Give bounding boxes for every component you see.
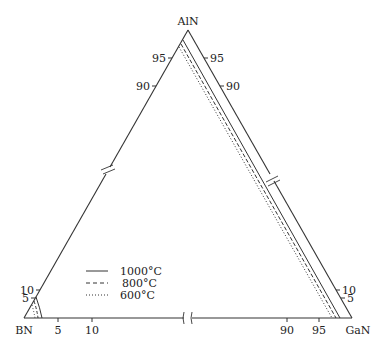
curve-600c-right [179, 47, 332, 318]
legend-label: 600°C [120, 289, 155, 302]
curve-1000c-left [36, 297, 42, 318]
vertex-label-top: AlN [176, 15, 198, 28]
bottom-tick-label: 5 [55, 324, 62, 337]
right-tick-label: 90 [226, 80, 240, 93]
vertex-label-right: GaN [346, 324, 371, 337]
curve-800c-left [34, 301, 38, 318]
bottom-tick-label: 95 [312, 324, 326, 337]
bottom-tick-label: 10 [85, 324, 99, 337]
legend: 1000°C 800°C 600°C [86, 265, 162, 302]
ternary-diagram: AlN BN GaN 95 90 10 5 95 90 10 5 5 10 90… [0, 0, 384, 348]
bottom-tick-label: 90 [280, 324, 294, 337]
right-tick-label: 95 [210, 52, 224, 65]
vertex-label-left: BN [15, 324, 33, 337]
curve-800c-right [181, 44, 336, 318]
left-tick-label: 90 [136, 80, 150, 93]
curve-600c-left [32, 305, 35, 318]
tick-marks [31, 58, 345, 322]
right-tick-label: 5 [347, 292, 354, 305]
triangle-outline [24, 30, 352, 318]
curve-1000c-right [183, 40, 340, 318]
left-tick-label: 95 [152, 52, 166, 65]
left-tick-label: 5 [22, 292, 29, 305]
